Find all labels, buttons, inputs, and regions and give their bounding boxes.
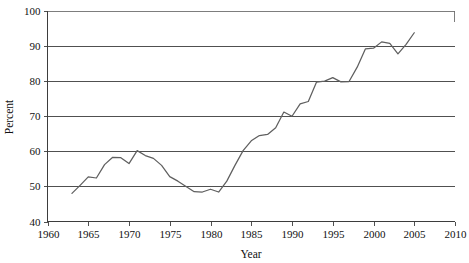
x-tick-label-2010: 2010 (445, 228, 468, 240)
x-axis-ticks: 1960196519701975198019851990199520002005… (38, 222, 468, 240)
y-axis-ticks: 405060708090100 (24, 5, 48, 228)
x-tick-label-1960: 1960 (38, 228, 61, 240)
x-axis-title: Year (240, 248, 261, 260)
y-axis-title: Percent (3, 99, 15, 134)
line-chart: 405060708090100 196019651970197519801985… (0, 0, 469, 263)
y-tick-label-70: 70 (30, 110, 42, 122)
y-tick-label-100: 100 (24, 5, 41, 17)
x-tick-label-1975: 1975 (160, 228, 183, 240)
y-tick-label-60: 60 (30, 145, 42, 157)
x-tick-label-2005: 2005 (404, 228, 427, 240)
y-tick-label-50: 50 (30, 180, 42, 192)
y-tick-label-80: 80 (30, 75, 42, 87)
x-tick-label-1985: 1985 (241, 228, 264, 240)
x-tick-label-1980: 1980 (201, 228, 224, 240)
x-tick-label-1970: 1970 (119, 228, 142, 240)
x-tick-label-1965: 1965 (78, 228, 101, 240)
y-tick-label-40: 40 (30, 216, 42, 228)
x-tick-label-2000: 2000 (364, 228, 387, 240)
x-tick-label-1990: 1990 (282, 228, 305, 240)
y-tick-label-90: 90 (30, 40, 42, 52)
chart-container: 405060708090100 196019651970197519801985… (0, 0, 469, 263)
x-tick-label-1995: 1995 (323, 228, 346, 240)
